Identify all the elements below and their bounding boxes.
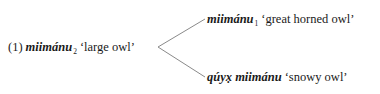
branch-node-upper: miimánu1‘great horned owl’: [207, 13, 354, 28]
root-gloss: ‘large owl’: [80, 40, 135, 54]
example-number: (1): [8, 40, 23, 54]
branch-node-lower: qúyx̣ miimánu‘snowy owl’: [207, 71, 348, 84]
lower-word: qúyx̣ miimánu: [207, 70, 282, 84]
root-word: miimánu: [26, 40, 73, 54]
upper-word: miimánu: [207, 12, 254, 26]
branch-line-upper: [158, 19, 205, 47]
root-node: (1)miimánu2‘large owl’: [8, 41, 135, 56]
lower-gloss: ‘snowy owl’: [285, 70, 348, 84]
upper-gloss: ‘great horned owl’: [261, 12, 354, 26]
branch-line-lower: [158, 47, 205, 77]
upper-subscript: 1: [255, 19, 259, 28]
root-subscript: 2: [73, 47, 77, 56]
